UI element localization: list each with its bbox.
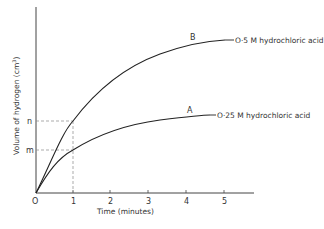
x-axis-label: Time (minutes)	[96, 207, 154, 216]
m-label: m	[26, 146, 34, 155]
n-label: n	[27, 117, 32, 126]
curve-b-label: B	[190, 33, 196, 42]
reaction-rate-chart: O 1 2 3 4 5 Time (minutes) Volume of hyd…	[0, 0, 324, 229]
curve-a	[36, 115, 210, 193]
curve-a-label: A	[187, 106, 193, 115]
curve-b	[36, 40, 225, 193]
origin-label: O	[32, 197, 38, 206]
x-tick-5: 5	[222, 197, 227, 206]
y-axis-label: Volume of hydrogen (cm3)	[11, 57, 21, 155]
x-tick-4: 4	[184, 197, 189, 206]
x-tick-2: 2	[108, 197, 113, 206]
legend-a: O·25 M hydrochloric acid	[217, 111, 311, 120]
x-tick-3: 3	[146, 197, 151, 206]
legend-b: O·5 M hydrochloric acid	[235, 36, 324, 45]
x-tick-1: 1	[71, 197, 76, 206]
